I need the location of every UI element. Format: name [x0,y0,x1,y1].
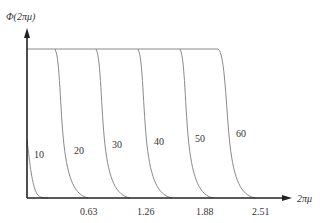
chart-canvas [0,0,327,223]
x-tick-label: 2.51 [252,206,270,217]
curve-30 [96,49,130,198]
curve-label-20: 20 [74,145,84,156]
curve-60 [218,49,255,198]
curve-50 [180,49,213,198]
y-axis-arrow-icon [24,28,30,38]
curve-40 [138,49,172,198]
x-tick-label: 1.88 [196,206,214,217]
curve-20 [55,49,88,198]
curve-label-30: 30 [112,139,122,150]
y-axis-label: Φ(2πμ) [6,11,35,22]
x-axis-arrow-icon [282,195,292,201]
x-tick-label: 0.63 [80,206,98,217]
curves-group [27,49,255,198]
curve-label-50: 50 [195,133,205,144]
curve-label-40: 40 [154,136,164,147]
curve-label-10: 10 [34,149,44,160]
x-axis-label: 2πμ [297,193,312,204]
x-tick-label: 1.26 [137,206,155,217]
curve-label-60: 60 [236,128,246,139]
